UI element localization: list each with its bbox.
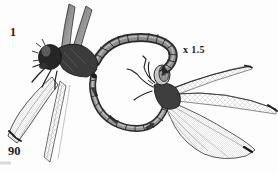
male-thorax <box>57 44 98 77</box>
page-number-label: 90 <box>8 144 21 159</box>
figure-plate: 1 x 1.5 90 <box>0 0 278 173</box>
dragonfly-wheel-illustration <box>0 0 278 173</box>
figure-number-label: 1 <box>10 25 16 40</box>
scan-artifact <box>0 162 11 165</box>
male-head <box>32 39 62 70</box>
magnification-label: x 1.5 <box>183 44 205 55</box>
female-wings <box>161 66 277 159</box>
female-legs <box>127 56 155 100</box>
female-dragonfly <box>89 56 277 159</box>
male-abdomen-arch <box>93 33 177 77</box>
